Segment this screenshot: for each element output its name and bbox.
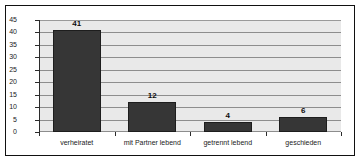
y-axis-tick-mark — [35, 20, 39, 21]
y-axis-tick-label: 25 — [0, 66, 17, 73]
y-axis-tick-mark — [35, 32, 39, 33]
x-axis-category-label: geschieden — [248, 138, 358, 147]
y-axis-tick-label: 20 — [0, 78, 17, 85]
bar[interactable] — [53, 30, 101, 132]
y-axis-tick-mark — [35, 107, 39, 108]
bar-value-label: 4 — [208, 111, 248, 120]
y-axis-tick-label: 35 — [0, 41, 17, 48]
bar-chart-figure: 05101520253035404541verheiratet12mit Par… — [0, 0, 364, 168]
y-axis-tick-label: 0 — [0, 128, 17, 135]
chart-frame-border: 05101520253035404541verheiratet12mit Par… — [5, 5, 355, 156]
y-axis-tick-label: 15 — [0, 91, 17, 98]
y-axis-tick-label: 40 — [0, 28, 17, 35]
bar[interactable] — [279, 117, 327, 132]
x-axis-tick-mark — [190, 132, 191, 136]
y-axis-tick-mark — [35, 82, 39, 83]
y-axis-tick-mark — [35, 57, 39, 58]
x-axis-tick-mark — [115, 132, 116, 136]
bar-value-label: 6 — [283, 106, 323, 115]
bar[interactable] — [204, 122, 252, 132]
bar-value-label: 12 — [132, 91, 172, 100]
x-axis-tick-mark — [266, 132, 267, 136]
bar-value-label: 41 — [57, 19, 97, 28]
y-axis-tick-mark — [35, 95, 39, 96]
y-axis-tick-mark — [35, 70, 39, 71]
y-axis-tick-mark — [35, 120, 39, 121]
y-axis-tick-label: 10 — [0, 103, 17, 110]
y-axis-tick-label: 5 — [0, 116, 17, 123]
y-axis-tick-label: 45 — [0, 16, 17, 23]
x-axis-tick-mark — [341, 132, 342, 136]
y-axis-tick-label: 30 — [0, 53, 17, 60]
bar[interactable] — [128, 102, 176, 132]
x-axis-tick-mark — [39, 132, 40, 136]
y-axis-tick-mark — [35, 45, 39, 46]
